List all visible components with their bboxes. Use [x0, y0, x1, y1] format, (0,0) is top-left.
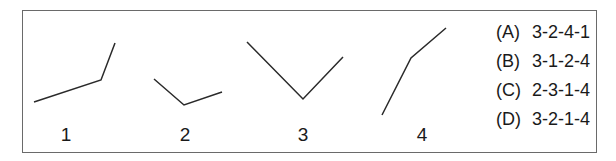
figure-1-line — [34, 43, 115, 102]
option-c-letter: (C) — [496, 80, 532, 101]
figure-3-line — [247, 42, 343, 99]
option-d-value: 3-2-1-4 — [532, 109, 590, 129]
option-a: (A)3-2-4-1 — [496, 22, 590, 43]
option-b-value: 3-1-2-4 — [532, 51, 590, 71]
option-c: (C)2-3-1-4 — [496, 80, 590, 101]
figure-2-label: 2 — [180, 124, 191, 146]
figure-1-label: 1 — [61, 124, 72, 146]
option-b: (B)3-1-2-4 — [496, 51, 590, 72]
option-a-letter: (A) — [496, 22, 532, 43]
figure-4-label: 4 — [417, 124, 428, 146]
option-d: (D)3-2-1-4 — [496, 109, 590, 130]
option-c-value: 2-3-1-4 — [532, 80, 590, 100]
figure-2-line — [154, 79, 222, 105]
option-b-letter: (B) — [496, 51, 532, 72]
figure-4-line — [382, 28, 446, 115]
option-a-value: 3-2-4-1 — [532, 22, 590, 42]
figure-3-label: 3 — [298, 124, 309, 146]
option-d-letter: (D) — [496, 109, 532, 130]
